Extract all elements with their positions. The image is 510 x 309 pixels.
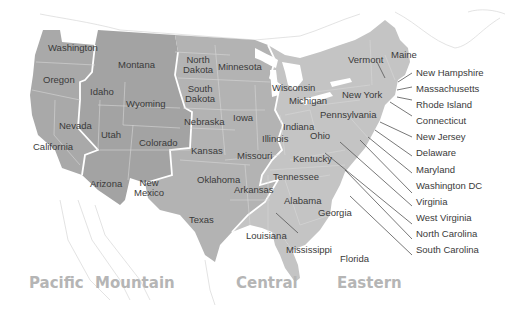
label-wyoming: Wyoming	[126, 99, 166, 109]
callout-maryland: Maryland	[416, 164, 455, 175]
label-south-dakota-line2: Dakota	[185, 93, 215, 104]
label-vermont: Vermont	[348, 55, 383, 65]
label-utah: Utah	[101, 130, 121, 140]
label-nebraska: Nebraska	[184, 117, 225, 127]
callout-washington-dc: Washington DC	[416, 180, 482, 191]
label-minnesota: Minnesota	[218, 62, 262, 72]
zone-label-mountain: Mountain	[95, 274, 175, 292]
label-tennessee: Tennessee	[273, 172, 319, 182]
label-mississippi: Mississippi	[286, 245, 332, 255]
callout-delaware: Delaware	[416, 147, 456, 158]
label-arkansas: Arkansas	[234, 185, 274, 195]
label-georgia: Georgia	[318, 208, 352, 218]
label-kentucky: Kentucky	[293, 154, 332, 164]
callout-west-virginia: West Virginia	[416, 212, 472, 223]
label-idaho: Idaho	[90, 87, 114, 97]
callout-rhode-island: Rhode Island	[416, 99, 472, 110]
label-oregon: Oregon	[43, 75, 75, 85]
label-wisconsin: Wisconsin	[272, 83, 315, 93]
label-illinois: Illinois	[262, 134, 288, 144]
label-south-dakota: SouthDakota	[185, 84, 215, 104]
label-california: California	[33, 142, 73, 152]
label-new-york: New York	[342, 90, 382, 100]
zone-label-pacific: Pacific	[29, 274, 84, 292]
label-pennsylvania: Pennsylvania	[320, 110, 377, 120]
label-nevada: Nevada	[59, 121, 92, 131]
label-arizona: Arizona	[90, 179, 122, 189]
label-new-mexico: NewMexico	[134, 178, 164, 198]
label-new-mexico-line2: Mexico	[134, 187, 164, 198]
zone-label-central: Central	[236, 274, 298, 292]
callout-south-carolina: South Carolina	[416, 244, 479, 255]
label-alabama: Alabama	[284, 196, 322, 206]
label-north-dakota: NorthDakota	[183, 55, 213, 75]
callout-connecticut: Connecticut	[416, 115, 466, 126]
label-colorado: Colorado	[139, 138, 178, 148]
callout-north-carolina: North Carolina	[416, 228, 477, 239]
label-iowa: Iowa	[233, 113, 253, 123]
label-michigan: Michigan	[289, 96, 327, 106]
callout-massachusetts: Massachusetts	[416, 83, 479, 94]
label-missouri: Missouri	[237, 151, 272, 161]
label-north-dakota-line2: Dakota	[183, 64, 213, 75]
callout-new-jersey: New Jersey	[416, 131, 466, 142]
label-maine: Maine	[391, 50, 417, 60]
callout-virginia: Virginia	[416, 196, 448, 207]
label-florida: Florida	[340, 254, 369, 264]
label-kansas: Kansas	[191, 146, 223, 156]
label-washington: Washington	[48, 43, 98, 53]
zone-label-eastern: Eastern	[337, 274, 402, 292]
callout-new-hampshire: New Hampshire	[416, 67, 484, 78]
label-texas: Texas	[189, 215, 214, 225]
label-ohio: Ohio	[310, 131, 330, 141]
label-montana: Montana	[118, 60, 155, 70]
label-louisiana: Louisiana	[246, 231, 287, 241]
